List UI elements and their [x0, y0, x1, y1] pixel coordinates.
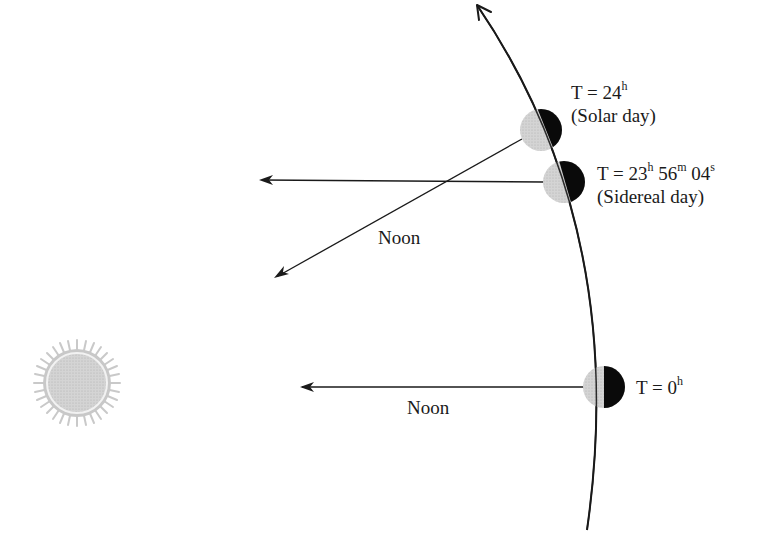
- star-direction-arrow: [259, 175, 544, 185]
- noon-label-solar: Noon: [378, 227, 420, 249]
- solar-day-time-label: T = 24h: [571, 82, 627, 104]
- t0-time-label: T = 0h: [636, 377, 683, 399]
- sidereal-day-time-label: T = 23h 56m 04s: [597, 163, 715, 185]
- noon-label-t0: Noon: [407, 397, 449, 419]
- solar-day-caption: (Solar day): [571, 105, 656, 127]
- sidereal-day-caption: (Sidereal day): [597, 186, 704, 208]
- sun-icon: [34, 340, 120, 426]
- noon-arrow-t0: [300, 382, 584, 392]
- sidereal-solar-day-diagram: [0, 0, 771, 556]
- noon-arrow-solar: [274, 139, 522, 278]
- earth-t0-icon: [583, 360, 634, 420]
- earth-sidereal-day-icon: [543, 150, 620, 220]
